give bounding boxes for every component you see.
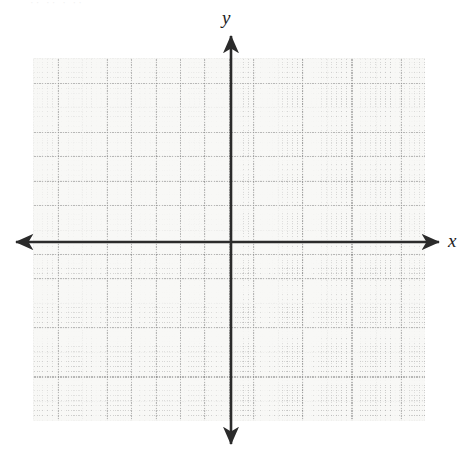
graph-paper-grid xyxy=(33,58,425,421)
coordinate-plane-figure: ·· ·· · ·· y x xyxy=(0,0,469,454)
scan-artifact: ·· ·· · ·· xyxy=(30,0,150,6)
major-grid-dotted-overlay xyxy=(33,58,425,421)
y-axis-label: y xyxy=(222,8,230,27)
major-gridlines xyxy=(33,58,425,421)
minor-grid-dotted-overlay xyxy=(33,58,425,421)
x-axis-label: x xyxy=(448,231,456,250)
